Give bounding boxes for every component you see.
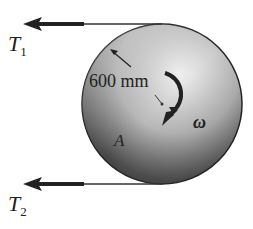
pulley-diagram: T1 T2 600 mm A ω (0, 0, 253, 229)
disk-label: A (113, 131, 125, 150)
radius-label: 600 mm (89, 71, 149, 91)
t2-label: T2 (8, 191, 27, 219)
omega-label: ω (193, 112, 206, 132)
t1-label: T1 (8, 31, 27, 59)
